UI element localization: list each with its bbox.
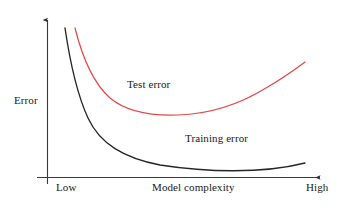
x-axis-tick-high: High bbox=[306, 182, 328, 193]
test-error-series-label: Test error bbox=[127, 79, 170, 90]
x-axis-label: Model complexity bbox=[152, 182, 235, 193]
figure-canvas: Error Low Model complexity High Test err… bbox=[0, 0, 344, 210]
test-error-curve bbox=[75, 28, 305, 115]
training-error-curve bbox=[65, 28, 305, 171]
plot-area bbox=[0, 0, 344, 210]
y-axis-label: Error bbox=[14, 95, 38, 106]
training-error-series-label: Training error bbox=[185, 133, 248, 144]
x-axis-tick-low: Low bbox=[56, 182, 76, 193]
